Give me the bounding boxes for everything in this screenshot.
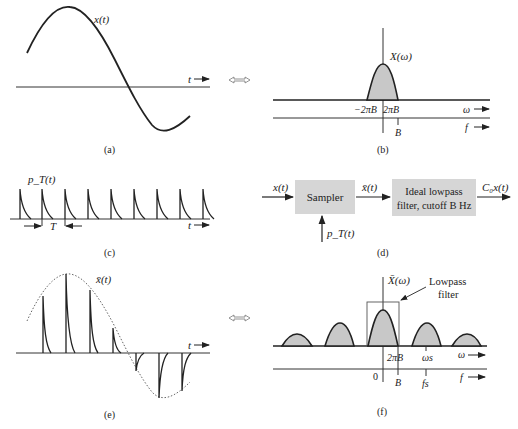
tick-omega-s: ωs [422,352,433,363]
baseband-spectrum [367,64,398,100]
replicated-spectra [282,310,481,346]
filter-label-line1: Ideal lowpass [405,186,462,197]
caption-c: (c) [104,247,115,259]
Xbar-omega-label: X̄(ω) [387,274,410,287]
B-label: B [395,127,401,138]
pT-input-label: p_T(t) [326,227,355,240]
tick-neg-2piB: −2πB [354,104,377,115]
omega-axis-label: ω [458,349,465,360]
omega-axis-label: ω [463,104,470,115]
sampled-x-label: x̄(t) [361,181,378,194]
figure-canvas: x(t) t (a) X(ω) −2πB 2πB ω B f (b) [0,0,518,429]
zero-label: 0 [373,371,378,382]
panel-e: x̄(t) t (e) [16,273,210,421]
panel-d: x(t) Sampler p_T(t) x̄(t) Ideal lowpass … [262,179,510,259]
input-x-label: x(t) [272,181,289,194]
f-axis-label: f [460,372,464,383]
caption-b: (b) [377,144,389,156]
lowpass-annotation-line1: Lowpass [429,276,466,287]
fourier-pair-arrow-icon [229,77,250,83]
tick-2piB: 2πB [383,104,399,115]
caption-a: (a) [104,144,115,156]
panel-a: x(t) t (a) [16,7,210,156]
f-axis-label: f [465,122,469,133]
panel-f: X̄(ω) Lowpass filter 2πB ωs ω 0 B fs f (… [273,274,487,418]
pT-label: p_T(t) [27,173,56,186]
annotation-pointer-icon [401,287,426,300]
T-label: T [50,220,57,232]
panel-b: X(ω) −2πB 2πB ω B f (b) [273,28,490,156]
sinusoid-curve [27,7,190,131]
t-axis-label: t [188,339,192,351]
sampler-label: Sampler [307,191,344,203]
caption-d: (d) [377,247,389,259]
sampled-pulses [43,274,191,398]
caption-f: (f) [377,406,387,418]
X-omega-label: X(ω) [389,50,412,63]
envelope-curve [27,274,190,398]
xbar-t-label: x̄(t) [95,273,112,286]
tick-2piB: 2πB [387,352,403,363]
t-axis-label: t [188,219,192,231]
B-label: B [395,377,401,388]
filter-label-line2: filter, cutoff B Hz [397,200,472,211]
fourier-pair-arrow-icon [229,315,250,321]
panel-c: p_T(t) T t (c) [10,173,214,259]
x-t-label: x(t) [93,13,110,26]
fs-label: fs [422,378,429,389]
pulse-train [20,189,214,219]
t-axis-label: t [188,73,192,85]
lowpass-annotation-line2: filter [438,289,459,300]
output-label: C₀x(t) [482,181,509,194]
caption-e: (e) [104,409,115,421]
